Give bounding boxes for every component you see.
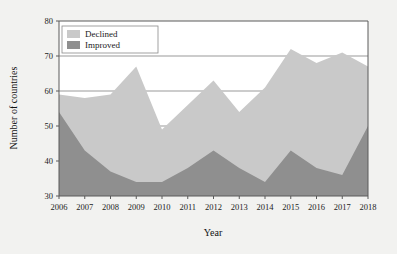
x-tick-label-2006: 2006 [51,202,68,212]
legend-swatch-improved [67,41,80,49]
y-tick-label-60: 60 [45,86,54,96]
x-tick-label-2017: 2017 [334,202,351,212]
stacked-area-chart: 304050607080 200620072008200920102011201… [0,0,397,254]
x-axis-title: Year [204,227,223,238]
x-tick-label-2018: 2018 [360,202,377,212]
x-tick-label-2011: 2011 [179,202,196,212]
chart-figure: 304050607080 200620072008200920102011201… [0,0,397,254]
y-tick-label-40: 40 [45,156,54,166]
x-tick-label-2016: 2016 [308,202,325,212]
chart-legend: Declined Improved [62,26,158,53]
x-tick-label-2008: 2008 [102,202,119,212]
x-tick-label-2013: 2013 [231,202,248,212]
x-tick-label-2012: 2012 [205,202,222,212]
y-tick-label-30: 30 [45,191,54,201]
legend-label-improved: Improved [85,40,120,50]
x-tick-label-2007: 2007 [76,202,93,212]
y-axis-title: Number of countries [8,67,19,150]
x-tick-label-2014: 2014 [257,202,275,212]
x-tick-label-2015: 2015 [282,202,299,212]
legend-label-declined: Declined [85,29,118,39]
y-tick-label-50: 50 [45,121,54,131]
x-tick-label-2010: 2010 [154,202,171,212]
y-tick-label-80: 80 [45,16,54,26]
legend-swatch-declined [67,30,80,38]
y-tick-label-70: 70 [45,51,54,61]
x-tick-label-2009: 2009 [128,202,145,212]
